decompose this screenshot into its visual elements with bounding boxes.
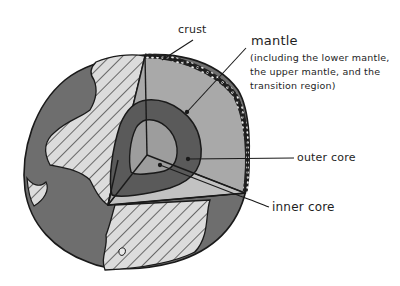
mantle-description: (including the lower mantle, the upper m…: [250, 51, 398, 93]
earth-cutaway-illustration: [0, 0, 400, 286]
earth-layers-diagram: crust mantle (including the lower mantle…: [0, 0, 400, 286]
crust-label: crust: [178, 23, 207, 36]
outer-core-label: outer core: [297, 151, 356, 164]
landmass-south: [103, 200, 210, 270]
island: [119, 248, 126, 256]
inner-core-label: inner core: [272, 200, 335, 214]
mantle-label: mantle: [251, 33, 298, 48]
